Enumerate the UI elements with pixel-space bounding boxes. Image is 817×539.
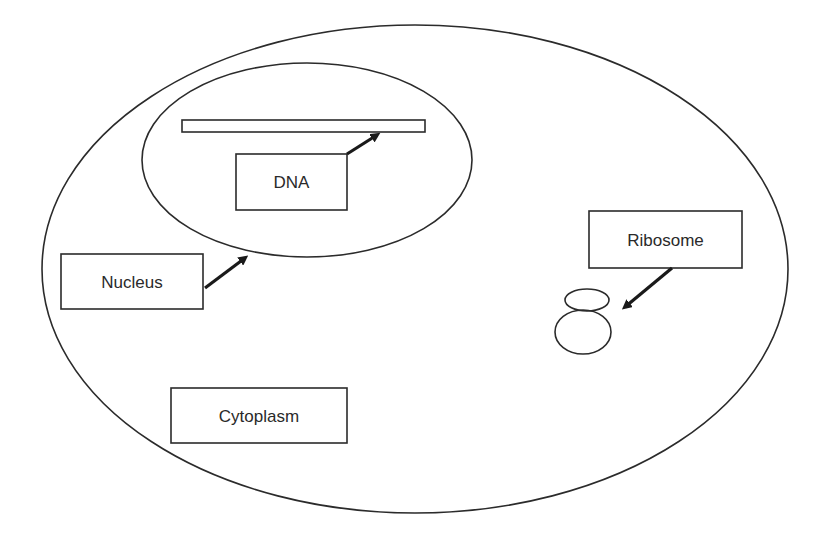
- ribosome-arrow-icon: [625, 268, 672, 307]
- ribosome-label-box: Ribosome: [589, 211, 742, 268]
- nucleus-label-box: Nucleus: [61, 254, 203, 309]
- cytoplasm-label-box: Cytoplasm: [171, 388, 347, 443]
- dna-arrow-icon: [347, 135, 377, 154]
- dna-strand: [182, 120, 425, 132]
- cell-diagram: DNA Nucleus Ribosome Cytoplasm: [0, 0, 817, 539]
- ribosome-shape: [555, 289, 611, 354]
- ribosome-label: Ribosome: [627, 231, 704, 250]
- cytoplasm-label: Cytoplasm: [219, 407, 299, 426]
- nucleus-arrow-icon: [205, 258, 245, 288]
- dna-label-box: DNA: [236, 154, 347, 210]
- ribosome-large-subunit: [555, 310, 611, 354]
- nucleus-label: Nucleus: [101, 273, 162, 292]
- dna-label: DNA: [274, 173, 311, 192]
- ribosome-small-subunit: [565, 289, 609, 311]
